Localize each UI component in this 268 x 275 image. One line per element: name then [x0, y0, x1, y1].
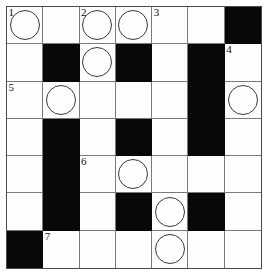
crossword-cell[interactable]: 4: [225, 44, 261, 81]
cell-letter: [80, 7, 115, 43]
crossword-cell[interactable]: [7, 119, 43, 156]
crossword-block-cell: [43, 44, 79, 81]
crossword-cell[interactable]: [116, 82, 152, 119]
cell-letter: [80, 44, 115, 80]
crossword-cell[interactable]: [152, 231, 188, 268]
crossword-cell[interactable]: [7, 193, 43, 230]
crossword-puzzle: 1234567: [0, 0, 268, 275]
cell-letter: [225, 44, 261, 80]
crossword-block-cell: [7, 231, 43, 268]
cell-letter: [7, 119, 42, 155]
cell-letter: [116, 156, 151, 192]
cell-letter: [80, 231, 115, 268]
crossword-cell[interactable]: 2: [80, 7, 116, 44]
crossword-block-cell: [188, 119, 224, 156]
crossword-cell[interactable]: 3: [152, 7, 188, 44]
cell-letter: [116, 82, 151, 118]
crossword-cell[interactable]: [152, 193, 188, 230]
crossword-grid: 1234567: [6, 6, 262, 269]
crossword-cell[interactable]: [152, 119, 188, 156]
crossword-cell[interactable]: [152, 44, 188, 81]
crossword-cell[interactable]: [152, 82, 188, 119]
crossword-block-cell: [188, 193, 224, 230]
crossword-block-cell: [188, 44, 224, 81]
crossword-cell[interactable]: [80, 44, 116, 81]
cell-letter: [225, 119, 261, 155]
crossword-cell[interactable]: [80, 119, 116, 156]
crossword-cell[interactable]: [225, 193, 261, 230]
crossword-cell[interactable]: [152, 156, 188, 193]
crossword-cell[interactable]: [7, 44, 43, 81]
crossword-block-cell: [43, 156, 79, 193]
cell-letter: [43, 82, 78, 118]
cell-letter: [188, 156, 223, 192]
crossword-block-cell: [188, 82, 224, 119]
cell-letter: [152, 231, 187, 268]
crossword-block-cell: [43, 193, 79, 230]
cell-letter: [152, 7, 187, 43]
cell-letter: [225, 193, 261, 229]
crossword-cell[interactable]: [116, 7, 152, 44]
crossword-cell[interactable]: [225, 156, 261, 193]
crossword-block-cell: [116, 44, 152, 81]
crossword-cell[interactable]: [116, 156, 152, 193]
crossword-block-cell: [116, 119, 152, 156]
cell-letter: [152, 82, 187, 118]
crossword-cell[interactable]: [80, 82, 116, 119]
crossword-cell[interactable]: 6: [80, 156, 116, 193]
cell-letter: [188, 7, 223, 43]
cell-letter: [225, 82, 261, 118]
crossword-cell[interactable]: [188, 231, 224, 268]
cell-letter: [116, 7, 151, 43]
cell-letter: [80, 193, 115, 229]
crossword-cell[interactable]: [225, 119, 261, 156]
cell-letter: [80, 119, 115, 155]
cell-letter: [7, 44, 42, 80]
cell-letter: [43, 231, 78, 268]
crossword-cell[interactable]: [43, 82, 79, 119]
crossword-cell[interactable]: [188, 156, 224, 193]
cell-letter: [225, 231, 261, 268]
cell-letter: [225, 156, 261, 192]
crossword-block-cell: [43, 119, 79, 156]
crossword-cell[interactable]: [7, 156, 43, 193]
cell-letter: [7, 82, 42, 118]
cell-letter: [7, 7, 42, 43]
crossword-block-cell: [116, 193, 152, 230]
crossword-cell[interactable]: [225, 231, 261, 268]
cell-letter: [152, 119, 187, 155]
cell-letter: [7, 156, 42, 192]
crossword-cell[interactable]: [225, 82, 261, 119]
cell-letter: [7, 193, 42, 229]
crossword-cell[interactable]: [116, 231, 152, 268]
cell-letter: [152, 156, 187, 192]
crossword-cell[interactable]: 7: [43, 231, 79, 268]
cell-letter: [80, 82, 115, 118]
crossword-cell[interactable]: 1: [7, 7, 43, 44]
cell-letter: [80, 156, 115, 192]
crossword-cell[interactable]: [80, 231, 116, 268]
cell-letter: [188, 231, 223, 268]
crossword-cell[interactable]: 5: [7, 82, 43, 119]
crossword-cell[interactable]: [188, 7, 224, 44]
crossword-block-cell: [225, 7, 261, 44]
cell-letter: [116, 231, 151, 268]
cell-letter: [152, 193, 187, 229]
crossword-cell[interactable]: [43, 7, 79, 44]
crossword-cell[interactable]: [80, 193, 116, 230]
cell-letter: [152, 44, 187, 80]
cell-letter: [43, 7, 78, 43]
